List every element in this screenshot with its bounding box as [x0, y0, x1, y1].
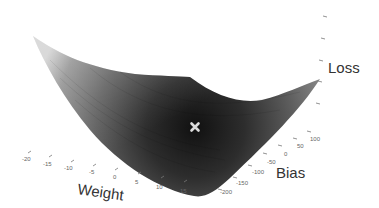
bias-tick: -100: [252, 169, 265, 175]
bias-tick: 0: [284, 151, 288, 157]
bias-axis-title: Bias: [276, 164, 305, 181]
weight-tick: 15: [180, 188, 187, 194]
loss-axis-title: Loss: [328, 59, 360, 76]
bias-tick: -200: [220, 189, 233, 195]
weight-axis-title: Weight: [77, 180, 126, 203]
weight-tick: 0: [113, 174, 117, 180]
loss-axis: Loss: [316, 16, 360, 104]
weight-tick: 5: [135, 179, 139, 185]
bias-tick: 100: [310, 136, 321, 142]
weight-tick: 10: [156, 184, 163, 190]
weight-tick: -20: [22, 156, 31, 162]
weight-tick: -5: [89, 169, 95, 175]
loss-surface-chart: -20 -15 -10 -5 0 5 10 15 Weight -200 -15…: [0, 0, 379, 208]
weight-tick: -15: [43, 161, 52, 167]
bias-tick: 50: [297, 143, 304, 149]
bias-tick: -150: [236, 180, 249, 186]
weight-tick: -10: [64, 165, 73, 171]
bias-tick: -50: [267, 159, 276, 165]
